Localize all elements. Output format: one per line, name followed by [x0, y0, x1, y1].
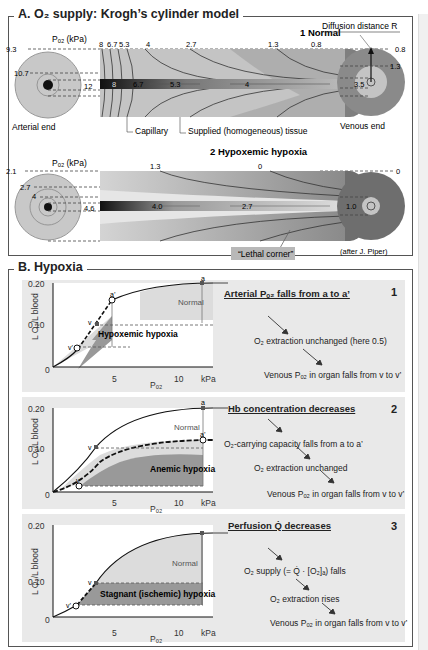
- svg-text:kPa: kPa: [201, 374, 216, 384]
- svg-text:v: v: [88, 319, 92, 326]
- svg-text:0: 0: [45, 365, 50, 375]
- svg-text:0.20: 0.20: [28, 404, 45, 414]
- svg-text:kPa: kPa: [201, 498, 216, 508]
- svg-text:5: 5: [112, 628, 117, 638]
- svg-text:10: 10: [174, 628, 184, 638]
- svg-text:10: 10: [174, 374, 184, 384]
- svg-text:0: 0: [45, 490, 50, 500]
- svg-text:0.20: 0.20: [28, 279, 45, 289]
- normal-label: Normal: [178, 298, 204, 307]
- y-axis-label: L O₂/L blood: [30, 293, 40, 340]
- svg-text:a’: a’: [110, 291, 116, 298]
- svg-text:a: a: [201, 399, 205, 406]
- svg-text:Pₒ₂: Pₒ₂: [150, 504, 162, 514]
- region-label: Stagnant (ischemic) hypoxia: [100, 589, 216, 599]
- region-label: Hypoxemic hypoxia: [98, 329, 178, 339]
- y-axis-label: L O₂/L blood: [30, 418, 40, 465]
- svg-text:v’: v’: [66, 602, 72, 609]
- chart-hypoxemic: Hypoxemic hypoxia Normal a a’ v v’: [53, 275, 213, 369]
- svg-text:0.20: 0.20: [28, 521, 45, 531]
- svg-text:v’: v’: [68, 344, 74, 351]
- chart-anemic: Anemic hypoxia Normal a a’ v v’: [53, 399, 215, 492]
- svg-text:10: 10: [174, 498, 184, 508]
- svg-text:0: 0: [45, 615, 50, 625]
- svg-text:a’: a’: [200, 431, 206, 438]
- normal-label: Normal: [174, 423, 200, 432]
- svg-text:v: v: [88, 444, 92, 451]
- svg-text:v: v: [88, 579, 92, 586]
- y-axis-label: L O₂/L blood: [30, 548, 40, 595]
- svg-text:a: a: [201, 275, 205, 282]
- svg-text:Pₒ₂: Pₒ₂: [150, 634, 162, 644]
- svg-text:kPa: kPa: [201, 628, 216, 638]
- svg-text:Pₒ₂: Pₒ₂: [150, 380, 162, 390]
- svg-text:v’: v’: [76, 477, 82, 484]
- chart-stagnant: Stagnant (ischemic) hypoxia Normal v v’: [53, 525, 216, 617]
- normal-label: Normal: [172, 559, 198, 568]
- region-label: Anemic hypoxia: [150, 464, 215, 474]
- svg-text:5: 5: [112, 498, 117, 508]
- svg-text:5: 5: [112, 374, 117, 384]
